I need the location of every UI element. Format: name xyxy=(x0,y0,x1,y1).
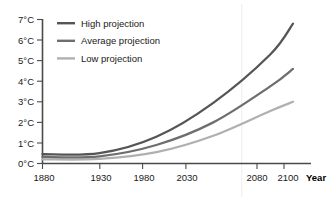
y-tick-label-1: 1°C xyxy=(18,138,34,149)
x-tick-label-2080: 2080 xyxy=(246,172,267,183)
x-tick-label-1930: 1930 xyxy=(90,172,111,183)
x-axis-group: 1880 1930 1980 2030 2080 2100 Year xyxy=(33,164,326,184)
temperature-projection-chart: 7°C 6°C 5°C 4°C 3°C 2°C 1°C 0°C 1880 193… xyxy=(0,0,331,201)
y-tick-label-0: 0°C xyxy=(18,158,34,169)
y-tick-label-7: 7°C xyxy=(18,14,34,25)
y-tick-label-4: 4°C xyxy=(18,76,34,87)
legend-label-high-projection: High projection xyxy=(81,18,144,29)
legend-label-low-projection: Low projection xyxy=(81,53,142,64)
x-tick-label-2100: 2100 xyxy=(277,172,298,183)
y-tick-label-2: 2°C xyxy=(18,117,34,128)
x-tick-label-2030: 2030 xyxy=(176,172,197,183)
legend-label-average-projection: Average projection xyxy=(81,35,160,46)
x-tick-label-1880: 1880 xyxy=(33,172,54,183)
y-axis-group: 7°C 6°C 5°C 4°C 3°C 2°C 1°C 0°C xyxy=(18,14,42,169)
y-tick-label-6: 6°C xyxy=(18,35,34,46)
x-axis-title: Year xyxy=(306,172,326,183)
legend: High projection Average projection Low p… xyxy=(57,18,160,64)
y-tick-label-5: 5°C xyxy=(18,55,34,66)
x-tick-label-1980: 1980 xyxy=(133,172,154,183)
chart-canvas: 7°C 6°C 5°C 4°C 3°C 2°C 1°C 0°C 1880 193… xyxy=(0,0,331,201)
y-tick-label-3: 3°C xyxy=(18,96,34,107)
series-line-average xyxy=(43,69,294,157)
